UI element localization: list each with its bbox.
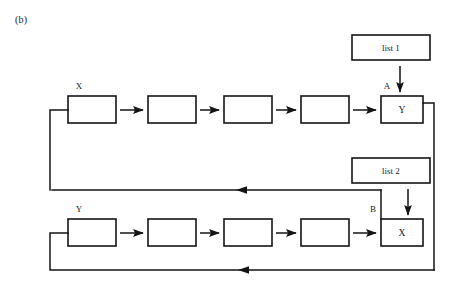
bottom-head-label: Y [76,204,83,214]
mid-return-arrowhead [236,186,247,194]
top-node-2[interactable] [148,96,196,123]
bottom-node-2[interactable] [148,219,196,246]
list-two-group: list 2 [352,158,430,215]
top-chain-group: X Y [68,81,423,123]
list-one-label: list 1 [382,43,400,53]
top-head-left-stub [50,110,68,190]
list-one-group: list 1 A [352,35,430,92]
bottom-return-arrowhead [238,266,249,274]
list-two-label: list 2 [382,166,400,176]
figure-root: (b) X Y [0,0,461,284]
top-node-4[interactable] [301,96,349,123]
bottom-node-5-text: X [399,228,406,238]
top-head-label: X [76,81,83,91]
top-node-3[interactable] [224,96,272,123]
bottom-node-4[interactable] [301,219,349,246]
bottom-node-3[interactable] [224,219,272,246]
tag-a-label: A [384,81,391,91]
tag-b-label: B [370,204,376,214]
y-to-right-spine [423,103,434,270]
top-node-1[interactable] [68,96,116,123]
top-node-5-text: Y [399,105,406,115]
linked-list-diagram: X Y Y X [0,0,461,284]
bottom-node-1[interactable] [68,219,116,246]
